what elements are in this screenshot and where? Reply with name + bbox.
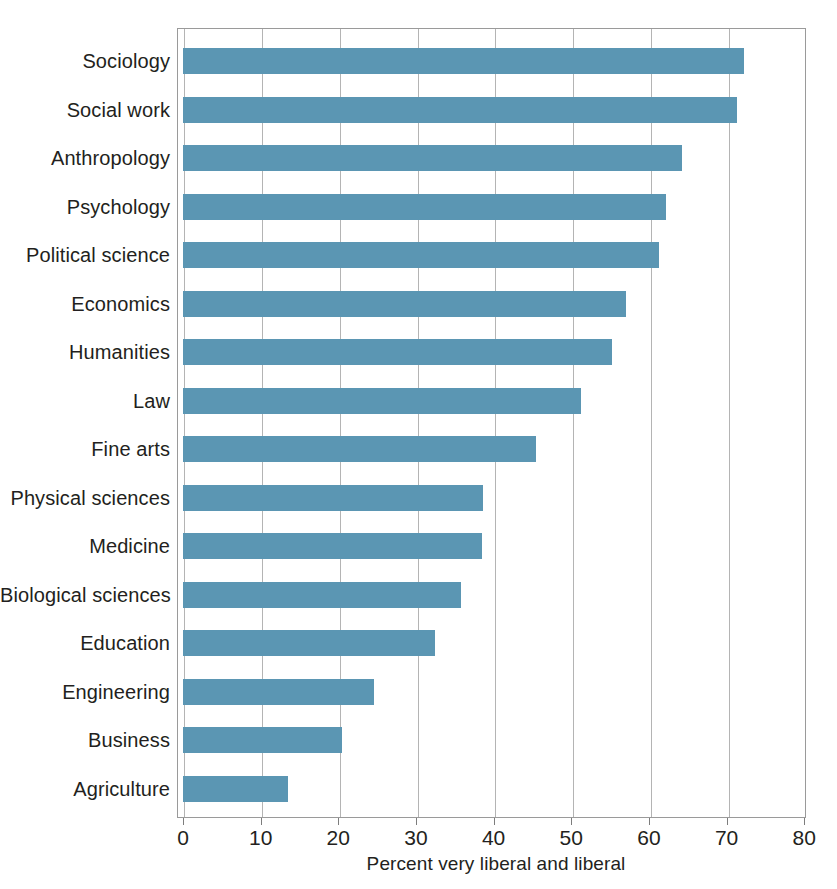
x-tick-mark — [571, 818, 572, 825]
x-tick-label: 20 — [327, 826, 350, 850]
bar-row — [177, 765, 806, 814]
x-tick-mark — [261, 818, 262, 825]
bar-row — [177, 86, 806, 135]
x-tick-label: 60 — [637, 826, 660, 850]
category-label: Psychology — [0, 196, 170, 219]
bar-row — [177, 474, 806, 523]
x-axis-title-text: Percent very liberal and liberal — [212, 853, 626, 875]
category-label: Education — [0, 632, 170, 655]
bar-row — [177, 134, 806, 183]
category-label: Social work — [0, 99, 170, 122]
category-label: Humanities — [0, 341, 170, 364]
bar — [183, 388, 581, 414]
bar — [183, 339, 612, 365]
x-tick-mark — [804, 818, 805, 825]
bar — [183, 679, 374, 705]
bars-layer — [177, 28, 806, 818]
x-axis-title: Percent very liberal and liberal — [0, 853, 837, 875]
category-label: Fine arts — [0, 438, 170, 461]
x-tick-label: 80 — [793, 826, 816, 850]
x-tick-mark — [494, 818, 495, 825]
x-tick-label: 40 — [482, 826, 505, 850]
bar — [183, 97, 737, 123]
category-label: Business — [0, 729, 170, 752]
bar — [183, 582, 461, 608]
bar-row — [177, 619, 806, 668]
bar — [183, 48, 744, 74]
x-tick-label: 10 — [249, 826, 272, 850]
bar — [183, 727, 342, 753]
bar-row — [177, 280, 806, 329]
category-label: Anthropology — [0, 147, 170, 170]
bar — [183, 630, 435, 656]
category-label: Law — [0, 390, 170, 413]
bar — [183, 485, 483, 511]
bar — [183, 145, 682, 171]
bar — [183, 194, 666, 220]
bar-row — [177, 377, 806, 426]
x-tick-mark — [649, 818, 650, 825]
x-tick-label: 70 — [715, 826, 738, 850]
bar-row — [177, 425, 806, 474]
category-label: Agriculture — [0, 778, 170, 801]
x-tick-label: 0 — [177, 826, 189, 850]
category-axis-labels: SociologySocial workAnthropologyPsycholo… — [0, 28, 170, 818]
bar — [183, 242, 659, 268]
bar — [183, 533, 482, 559]
bar-chart-figure: SociologySocial workAnthropologyPsycholo… — [0, 0, 837, 889]
x-tick-mark — [416, 818, 417, 825]
x-tick-mark — [338, 818, 339, 825]
x-tick-mark — [183, 818, 184, 825]
bar-row — [177, 571, 806, 620]
bar-row — [177, 37, 806, 86]
bar — [183, 436, 536, 462]
category-label: Political science — [0, 244, 170, 267]
category-label: Physical sciences — [0, 487, 170, 510]
category-label: Economics — [0, 293, 170, 316]
category-label: Biological sciences — [0, 584, 170, 607]
bar-row — [177, 328, 806, 377]
category-label: Engineering — [0, 681, 170, 704]
bar-row — [177, 716, 806, 765]
bar-row — [177, 183, 806, 232]
bar — [183, 776, 288, 802]
category-label: Sociology — [0, 50, 170, 73]
bar — [183, 291, 626, 317]
x-tick-label: 50 — [560, 826, 583, 850]
x-tick-mark — [727, 818, 728, 825]
x-tick-label: 30 — [404, 826, 427, 850]
bar-row — [177, 231, 806, 280]
bar-row — [177, 668, 806, 717]
bar-row — [177, 522, 806, 571]
category-label: Medicine — [0, 535, 170, 558]
